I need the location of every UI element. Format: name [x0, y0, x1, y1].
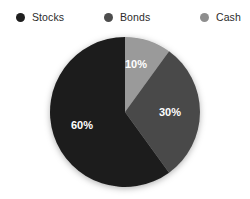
- pie-label-stocks: 60%: [71, 119, 93, 131]
- pie-svg: 10% 30% 60%: [0, 0, 250, 199]
- pie-label-cash: 10%: [125, 58, 147, 70]
- pie-plot-area: 10% 30% 60%: [0, 0, 250, 199]
- pie-chart-figure: Stocks Bonds Cash: [0, 0, 250, 199]
- pie-label-bonds: 30%: [159, 106, 181, 118]
